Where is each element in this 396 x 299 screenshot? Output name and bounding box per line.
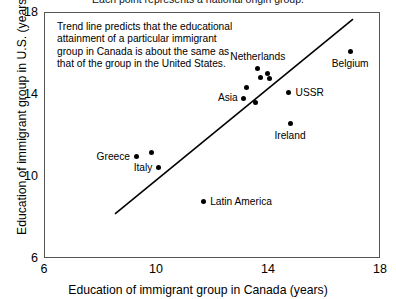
- x-axis-tick-label: 14: [248, 263, 288, 276]
- data-point: [134, 154, 139, 159]
- y-axis-tick: [44, 177, 45, 178]
- data-point-label: Ireland: [274, 131, 305, 141]
- x-axis-tick: [157, 257, 158, 258]
- x-axis-tick-label: 18: [360, 263, 396, 276]
- data-point: [241, 96, 246, 101]
- data-point-label: Latin America: [210, 197, 272, 207]
- data-point-label: Greece: [97, 152, 130, 162]
- x-axis-title: Education of immigrant group in Canada (…: [0, 283, 396, 297]
- data-point-label: Asia: [218, 93, 238, 103]
- trend-line-segment: [115, 19, 353, 214]
- data-point: [201, 199, 206, 204]
- plot-area: Trend line predicts that the educational…: [44, 12, 380, 258]
- trend-line: [45, 13, 380, 258]
- data-point-label: USSR: [296, 88, 324, 98]
- chart-top-caption: Each point represents a national origin …: [0, 0, 396, 5]
- x-axis-tick-label: 6: [24, 263, 64, 276]
- data-point: [288, 121, 293, 126]
- data-point: [267, 76, 272, 81]
- data-point: [253, 100, 258, 105]
- data-point-label: Belgium: [332, 59, 369, 69]
- data-point: [149, 150, 154, 155]
- x-axis-tick: [269, 257, 270, 258]
- data-point-label: Italy: [134, 163, 153, 173]
- y-axis-title: Education of immigrant group in U.S. (ye…: [15, 15, 29, 235]
- x-axis-tick-label: 10: [136, 263, 176, 276]
- y-axis-tick: [44, 95, 45, 96]
- data-point-label: Netherlands: [230, 52, 285, 62]
- scatter-plot-figure: Each point represents a national origin …: [0, 0, 396, 299]
